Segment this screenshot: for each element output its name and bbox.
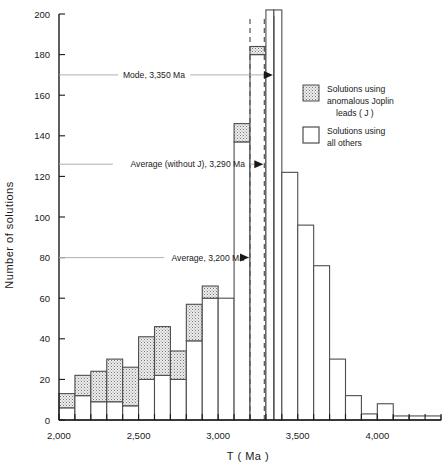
histogram-bin [186,304,202,420]
y-tick-label: 100 [34,212,50,223]
y-tick-label: 180 [34,49,50,60]
chart-canvas: 0204060801001201401601802002,0002,5003,0… [0,0,443,467]
bar-segment-joplin [123,367,139,406]
histogram-bin [314,266,330,420]
bar-segment-all-others [123,406,139,420]
legend-label-others-line2: all others [327,138,362,148]
bar-segment-all-others [361,414,377,420]
y-tick-label: 40 [39,333,50,344]
bar-segment-all-others [170,379,186,420]
bar-segment-all-others [298,225,314,420]
x-axis-title: T ( Ma ) [227,450,269,462]
annotation-average: Average, 3,200 Ma [59,253,249,263]
histogram-bin [250,46,266,420]
bar-segment-all-others [234,142,250,420]
histogram-bin [123,367,139,420]
legend: Solutions using anomalous Joplin leads (… [303,84,394,148]
histogram-bin [107,359,123,420]
legend-label-joplin-line1: Solutions using [327,84,386,94]
annotation-label: Average (without J), 3,290 Ma [131,159,246,169]
y-tick-label: 80 [39,252,50,263]
bar-segment-all-others [91,402,107,420]
histogram-bin [377,404,393,420]
bar-segment-joplin [107,359,123,402]
histogram-bin [170,351,186,420]
histogram-bin [266,10,274,420]
bar-segment-joplin [202,286,218,298]
histogram-bin [155,327,171,420]
histogram-bin [274,10,282,420]
histogram-bin [282,172,298,420]
x-tick-label: 4,000 [365,430,389,441]
legend-label-joplin-line3: leads ( J ) [336,108,374,118]
histogram-bin [202,286,218,420]
x-tick-label: 2,000 [47,430,71,441]
bar-segment-joplin [91,371,107,401]
y-axis-title: Number of solutions [3,181,15,288]
x-tick-label: 2,500 [127,430,151,441]
histogram-bin [139,337,155,420]
x-tick-label: 3,000 [206,430,230,441]
bar-segment-all-others [282,172,298,420]
y-tick-label: 60 [39,293,50,304]
bar-segment-all-others [274,10,282,420]
y-tick-label: 0 [45,415,50,426]
bar-segment-all-others [218,298,234,420]
legend-label-joplin-line2: anomalous Joplin [327,96,394,106]
bar-segment-all-others [314,266,330,420]
histogram-bin [330,359,346,420]
y-tick-label: 20 [39,374,50,385]
histogram-bin [218,298,234,420]
histogram-bin [59,394,75,420]
legend-label-others-line1: Solutions using [327,126,386,136]
y-tick-label: 140 [34,130,50,141]
legend-swatch-white [303,127,319,143]
bar-segment-all-others [377,404,393,420]
bar-segment-all-others [75,396,91,420]
bar-segment-all-others [155,375,171,420]
histogram-bin [91,371,107,420]
bar-segment-all-others [330,359,346,420]
y-tick-label: 200 [34,9,50,20]
legend-swatch-stipple [303,85,319,101]
bar-segment-all-others [266,10,274,420]
bar-segment-all-others [139,379,155,420]
bar-segment-joplin [75,375,91,395]
bar-segment-joplin [59,394,75,408]
bar-segment-joplin [234,124,250,142]
bar-segment-joplin [155,327,171,376]
y-tick-label: 120 [34,171,50,182]
annotation-mode: Mode, 3,350 Ma [59,70,273,80]
histogram-bin [75,375,91,420]
histogram-figure: 0204060801001201401601802002,0002,5003,0… [0,0,443,467]
bar-segment-joplin [139,337,155,380]
histogram-bin [298,225,314,420]
annotation-label: Mode, 3,350 Ma [123,70,185,80]
annotation-average-no-j: Average (without J), 3,290 Ma [59,159,263,169]
x-tick-label: 3,500 [286,430,310,441]
bar-segment-all-others [59,408,75,420]
bar-segment-joplin [170,351,186,379]
bar-segment-all-others [250,55,266,420]
bar-segment-all-others [346,396,362,420]
histogram-bin [361,414,377,420]
bar-segment-joplin [250,46,266,54]
histogram-bars [59,10,441,420]
bar-segment-all-others [107,402,123,420]
histogram-bin [346,396,362,420]
bar-segment-all-others [202,298,218,420]
y-tick-label: 160 [34,90,50,101]
bar-segment-joplin [186,304,202,341]
bar-segment-all-others [186,341,202,420]
annotation-label: Average, 3,200 Ma [172,253,245,263]
